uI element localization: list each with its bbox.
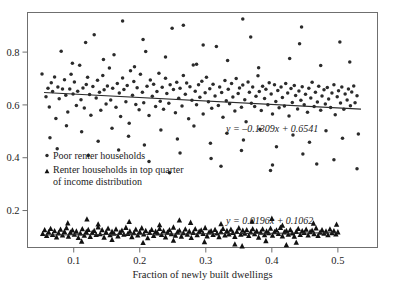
data-point-circle (209, 157, 213, 161)
data-point-circle (294, 94, 298, 98)
data-point-circle (284, 82, 288, 86)
data-point-triangle (303, 226, 308, 231)
data-point-circle (168, 83, 172, 87)
data-point-circle (127, 121, 131, 125)
scatter-chart-figure: 0.20.40.60.8 0.10.20.30.40.5 y = –0.1309… (0, 0, 395, 288)
data-point-circle (221, 116, 225, 120)
data-point-circle (152, 83, 156, 87)
data-point-circle (92, 33, 96, 37)
data-point-circle (330, 91, 334, 95)
data-point-circle (85, 83, 89, 87)
data-point-circle (159, 128, 163, 132)
legend-triangle-marker-icon (45, 169, 50, 173)
data-point-circle (165, 92, 169, 96)
data-point-circle (50, 81, 54, 85)
data-point-triangle (232, 241, 237, 246)
data-point-circle (69, 73, 73, 77)
data-point-triangle (268, 225, 273, 230)
data-point-circle (119, 115, 123, 119)
data-point-circle (332, 158, 336, 162)
data-point-triangle (177, 217, 182, 222)
data-point-circle (79, 98, 83, 102)
data-point-circle (281, 96, 285, 100)
data-point-circle (258, 90, 262, 94)
data-point-circle (341, 136, 345, 140)
data-point-triangle (48, 226, 53, 231)
data-point-circle (65, 124, 69, 128)
data-point-circle (210, 107, 214, 111)
data-point-circle (299, 98, 303, 102)
data-point-circle (256, 74, 260, 78)
y-tick-label: 0.4 (6, 152, 20, 163)
data-point-circle (83, 106, 87, 110)
data-point-circle (48, 105, 52, 109)
data-point-triangle (171, 224, 176, 229)
data-point-circle (201, 112, 205, 116)
data-point-circle (352, 84, 356, 88)
data-point-circle (127, 135, 131, 139)
data-point-circle (132, 80, 136, 84)
data-point-circle (260, 109, 264, 113)
data-point-triangle (64, 225, 69, 230)
data-point-circle (314, 90, 318, 94)
data-point-circle (91, 85, 95, 89)
data-point-triangle (202, 239, 207, 244)
data-point-triangle (313, 225, 318, 230)
data-point-circle (44, 95, 48, 99)
data-point-circle (53, 75, 57, 79)
data-point-circle (300, 25, 304, 29)
data-point-circle (116, 82, 120, 86)
data-point-circle (275, 145, 279, 149)
data-point-circle (185, 81, 189, 85)
data-point-circle (203, 91, 207, 95)
x-tick-label: 0.3 (199, 255, 212, 266)
data-point-circle (154, 105, 158, 109)
data-point-circle (129, 69, 133, 73)
data-point-triangle (99, 227, 104, 232)
data-point-circle (111, 87, 115, 91)
data-point-circle (134, 103, 138, 107)
data-point-circle (277, 106, 281, 110)
data-point-circle (298, 42, 302, 46)
data-point-circle (233, 109, 237, 113)
data-point-circle (333, 113, 337, 117)
data-point-circle (131, 93, 135, 97)
data-point-circle (139, 73, 143, 77)
data-point-circle (164, 76, 168, 80)
data-point-triangle (260, 226, 265, 231)
data-point-circle (98, 90, 102, 94)
data-point-circle (54, 117, 58, 121)
data-point-circle (257, 66, 261, 70)
data-point-circle (271, 163, 275, 167)
data-point-triangle (296, 226, 301, 231)
data-point-triangle (157, 222, 162, 227)
data-point-circle (309, 96, 313, 100)
data-point-circle (211, 83, 215, 87)
data-point-circle (317, 84, 321, 88)
data-point-circle (308, 140, 312, 144)
data-point-circle (176, 137, 180, 141)
data-point-circle (71, 61, 75, 64)
data-point-circle (147, 160, 151, 164)
data-point-circle (322, 88, 326, 92)
data-point-circle (102, 88, 106, 92)
data-point-circle (141, 38, 145, 42)
data-point-circle (155, 90, 159, 94)
data-point-circle (297, 89, 301, 93)
data-point-circle (149, 78, 153, 82)
data-point-circle (230, 82, 234, 86)
data-point-circle (135, 86, 139, 90)
data-point-circle (101, 74, 105, 78)
data-point-circle (241, 83, 245, 87)
data-point-triangle (126, 219, 131, 224)
data-point-circle (276, 89, 280, 93)
data-point-circle (76, 89, 80, 93)
data-point-circle (170, 27, 174, 31)
data-point-circle (180, 104, 184, 108)
data-point-circle (251, 85, 255, 89)
data-point-circle (102, 58, 106, 62)
data-point-circle (287, 114, 291, 118)
data-point-triangle (189, 235, 194, 240)
data-point-circle (142, 101, 146, 105)
data-point-circle (59, 50, 63, 54)
